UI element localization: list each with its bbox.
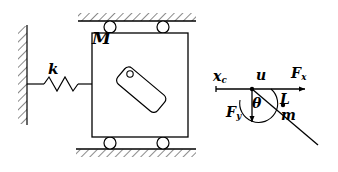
pivot-dot [250, 87, 254, 91]
bottom-rail [76, 149, 196, 157]
spring-constant-label: k [48, 62, 58, 77]
cart-pendulum-figure: M k xc u Fx L θ Fy m [0, 0, 338, 172]
force-x-label: Fx [291, 66, 306, 80]
fbd-axis [216, 86, 305, 92]
cart-position-subscript: c [222, 75, 227, 85]
input-displacement-label: u [256, 68, 266, 82]
rod-length-label: L [280, 92, 290, 106]
cart-position-label: xc [213, 69, 227, 83]
roller-bottom-left [104, 137, 116, 149]
force-y-label: Fy [226, 105, 241, 119]
force-y-subscript: y [236, 111, 241, 121]
roller-top-right [157, 21, 169, 33]
figure-canvas [0, 0, 338, 172]
cart-mass-label: M [92, 30, 111, 47]
pivot-hole [127, 71, 133, 77]
pendulum-mass-label: m [281, 108, 296, 122]
top-rail [78, 13, 196, 21]
force-y-base: F [226, 104, 236, 120]
roller-bottom-right [157, 137, 169, 149]
cart-position-base: x [213, 68, 221, 84]
angle-label: θ [252, 96, 261, 110]
fixed-wall [18, 25, 27, 125]
force-x-subscript: x [301, 72, 306, 82]
coil-spring [27, 77, 92, 91]
force-x-base: F [291, 65, 301, 81]
